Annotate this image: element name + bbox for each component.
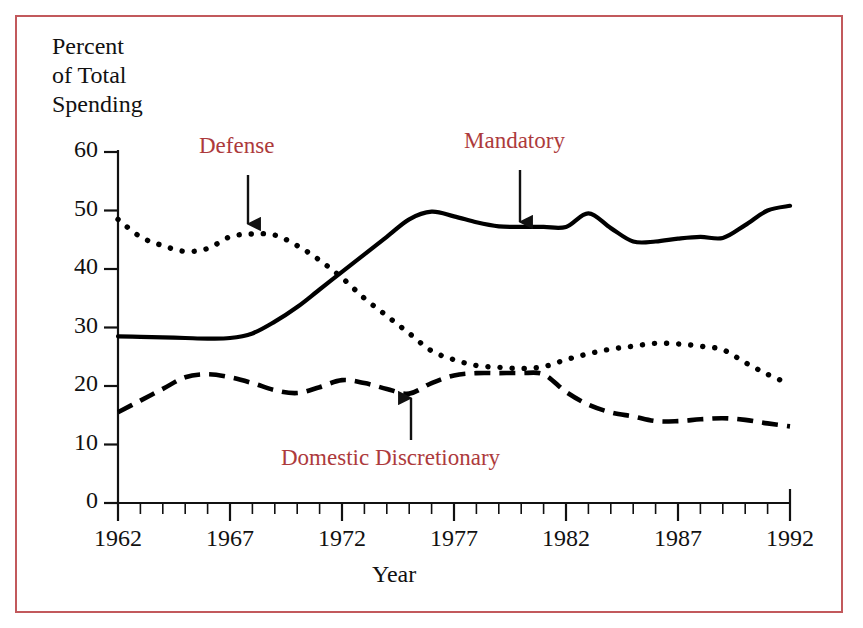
series-line-defense — [118, 219, 790, 384]
series-line-domestic-discretionary — [118, 373, 790, 427]
chart-plot — [0, 0, 863, 628]
series-line-mandatory — [118, 206, 790, 339]
